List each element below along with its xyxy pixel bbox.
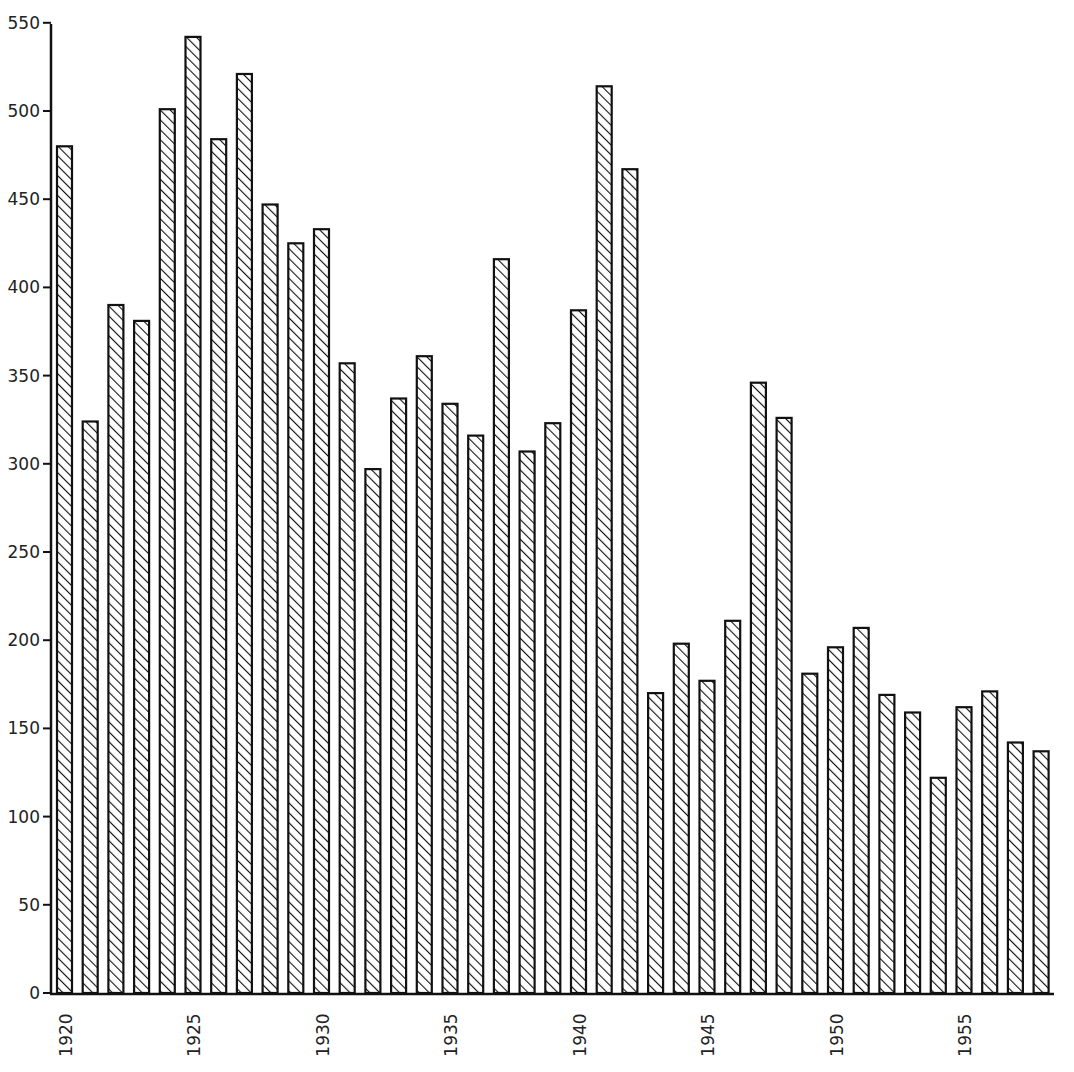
- bar-1956: [982, 691, 997, 993]
- bar-1931: [340, 363, 355, 993]
- x-tick-label: 1955: [955, 1013, 975, 1056]
- bar-1933: [391, 399, 406, 994]
- bar-1957: [1008, 743, 1023, 994]
- y-tick-label: 100: [8, 807, 40, 827]
- bar-1937: [494, 259, 509, 993]
- y-tick-label: 250: [8, 542, 40, 562]
- bar-1939: [545, 423, 560, 993]
- bars-group: [57, 37, 1049, 993]
- x-axis-ticks: 19201925193019351940194519501955: [56, 1013, 976, 1056]
- bar-1949: [802, 674, 817, 993]
- bar-1952: [879, 695, 894, 993]
- bar-1947: [751, 383, 766, 993]
- y-tick-label: 500: [8, 101, 40, 121]
- bar-1921: [83, 422, 98, 994]
- y-tick-label: 200: [8, 630, 40, 650]
- bar-1934: [417, 356, 432, 993]
- y-tick-label: 550: [8, 13, 40, 33]
- y-tick-label: 0: [29, 983, 40, 1003]
- bar-1953: [905, 713, 920, 994]
- bar-1958: [1034, 751, 1049, 993]
- bar-1944: [674, 644, 689, 993]
- y-tick-label: 300: [8, 454, 40, 474]
- bar-1945: [700, 681, 715, 993]
- bar-1928: [263, 205, 278, 994]
- bar-1948: [777, 418, 792, 993]
- x-tick-label: 1930: [313, 1013, 333, 1056]
- bar-1936: [468, 436, 483, 993]
- bar-1925: [186, 37, 201, 993]
- bar-1926: [211, 139, 226, 993]
- bar-1951: [854, 628, 869, 993]
- bar-1955: [957, 707, 972, 993]
- x-tick-label: 1920: [56, 1013, 76, 1056]
- y-tick-label: 350: [8, 366, 40, 386]
- bar-1946: [725, 621, 740, 993]
- x-tick-label: 1945: [698, 1013, 718, 1056]
- y-tick-label: 450: [8, 189, 40, 209]
- bar-1932: [365, 469, 380, 993]
- bar-chart: 050100150200250300350400450500550 192019…: [0, 0, 1074, 1072]
- bar-1922: [108, 305, 123, 993]
- x-tick-label: 1950: [827, 1013, 847, 1056]
- bar-1941: [597, 86, 612, 993]
- y-tick-label: 400: [8, 277, 40, 297]
- bar-1940: [571, 310, 586, 993]
- y-axis-ticks: 050100150200250300350400450500550: [8, 13, 51, 1003]
- x-tick-label: 1925: [184, 1013, 204, 1056]
- bar-1927: [237, 74, 252, 993]
- bar-1930: [314, 229, 329, 993]
- bar-1935: [443, 404, 458, 993]
- y-tick-label: 150: [8, 718, 40, 738]
- bar-1929: [288, 243, 303, 993]
- bar-1954: [931, 778, 946, 993]
- bar-1943: [648, 693, 663, 993]
- x-tick-label: 1935: [441, 1013, 461, 1056]
- bar-1950: [828, 647, 843, 993]
- bar-1924: [160, 109, 175, 993]
- bar-1920: [57, 146, 72, 993]
- y-tick-label: 50: [18, 895, 40, 915]
- bar-1923: [134, 321, 149, 993]
- x-tick-label: 1940: [570, 1013, 590, 1056]
- bar-1942: [622, 169, 637, 993]
- bar-1938: [520, 452, 535, 994]
